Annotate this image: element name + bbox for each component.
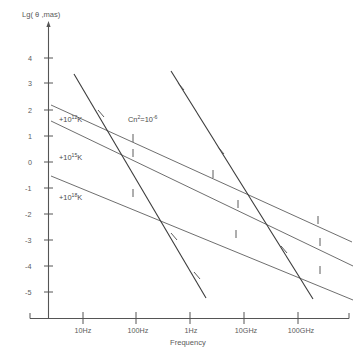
x-tick-label-1: 10Hz bbox=[75, 326, 92, 335]
series-2-label: +1015K bbox=[59, 152, 82, 162]
series-line-2 bbox=[51, 121, 353, 266]
y-tick-label-m1: -1 bbox=[25, 184, 31, 193]
chart-svg: Lg( θ ,mas) 4 3 2 1 0 -1 -2 -3 -4 -5 bbox=[0, 0, 363, 349]
svg-text:+1018K: +1018K bbox=[59, 192, 82, 202]
y-tick-label-m5: -5 bbox=[25, 288, 31, 297]
series-2-label-prefix: +10 bbox=[59, 153, 72, 162]
y-axis-arrow bbox=[46, 21, 50, 27]
series-line-1 bbox=[51, 105, 352, 242]
series-2-label-suffix: K bbox=[77, 153, 82, 162]
cn2-annotation: Cn2=10-6 bbox=[128, 114, 158, 124]
y-tick-label-2: 2 bbox=[28, 106, 32, 115]
y-tick-label-1: 1 bbox=[28, 132, 32, 141]
x-tick-label-4: 10GHz bbox=[235, 326, 258, 335]
series-line-3 bbox=[51, 176, 353, 300]
series-3-label: +1018K bbox=[59, 192, 82, 202]
cn2-annotation-mid: =10 bbox=[140, 115, 153, 124]
y-tick-label-m3: -3 bbox=[25, 236, 31, 245]
y-tick-label-4: 4 bbox=[28, 54, 32, 63]
cn2-annotation-sup2: -6 bbox=[153, 114, 158, 120]
series-brightness-temperature-1e18K: +1018K bbox=[51, 176, 353, 300]
series-turbulence-scattering-line-right bbox=[171, 71, 313, 299]
series-4-marker-2 bbox=[171, 233, 177, 240]
series-4-marker-3 bbox=[194, 272, 200, 279]
cn2-annotation-base: Cn bbox=[128, 115, 137, 124]
series-brightness-temperature-1e15K: +1015K bbox=[51, 121, 353, 266]
y-tick-labels: 4 3 2 1 0 -1 -2 -3 -4 -5 bbox=[25, 54, 32, 297]
x-axis-title: Frequency bbox=[170, 338, 206, 347]
x-tick-label-3: 1Hz bbox=[185, 326, 198, 335]
chart-figure: Lg( θ ,mas) 4 3 2 1 0 -1 -2 -3 -4 -5 bbox=[0, 0, 363, 349]
svg-text:+1015K: +1015K bbox=[59, 152, 82, 162]
y-tick-label-m4: -4 bbox=[25, 262, 31, 271]
x-tick-labels: 10Hz 100Hz 1Hz 10GHz 100GHz bbox=[75, 326, 315, 335]
series-5-marker-2 bbox=[218, 147, 224, 154]
x-tick-label-5: 100GHz bbox=[288, 326, 315, 335]
series-line-5 bbox=[171, 71, 313, 299]
series-3-label-prefix: +10 bbox=[59, 193, 72, 202]
series-brightness-temperature-1e12K: +1012K bbox=[51, 105, 352, 242]
x-tick-label-2: 100Hz bbox=[128, 326, 149, 335]
y-axis-title: Lg( θ ,mas) bbox=[22, 10, 61, 19]
svg-text:+1012K: +1012K bbox=[59, 114, 82, 124]
y-tick-label-0: 0 bbox=[28, 158, 32, 167]
series-5-marker-1 bbox=[178, 83, 184, 90]
series-1-label-suffix: K bbox=[77, 115, 82, 124]
series-3-label-suffix: K bbox=[77, 193, 82, 202]
series-1-label-prefix: +10 bbox=[59, 115, 72, 124]
y-axis: 4 3 2 1 0 -1 -2 -3 -4 -5 bbox=[25, 21, 53, 318]
y-tick-label-m2: -2 bbox=[25, 210, 31, 219]
series-1-label: +1012K bbox=[59, 114, 82, 124]
x-axis: 10Hz 100Hz 1Hz 10GHz 100GHz Frequency bbox=[30, 312, 349, 347]
y-tick-label-3: 3 bbox=[28, 79, 32, 88]
